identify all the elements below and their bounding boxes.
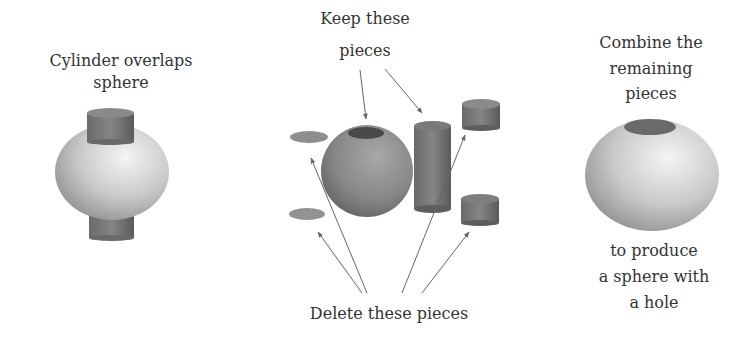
boolean-operation-diagram: Cylinder overlaps sphere Keep these piec… [0,0,754,340]
left-caption-line2: sphere [93,73,148,92]
keep-label-line2: pieces [339,41,390,60]
sphere-with-hole-piece [321,125,413,217]
result-line1: to produce [610,241,698,260]
delete-label: Delete these pieces [310,304,468,323]
keep-arrows [360,69,422,119]
top-cylinder-shape [87,108,134,145]
result-line2: a sphere with [599,267,710,286]
tall-cylinder-piece [414,121,451,213]
right-caption-line1: Combine the [599,33,702,52]
result-sphere-with-hole [585,119,719,231]
bottom-cap-cylinder-piece [461,194,499,226]
right-caption-line2: remaining [610,59,693,78]
right-panel: Combine the remaining pieces to produce … [585,33,719,312]
top-disc-piece [290,131,328,143]
keep-label-line1: Keep these [320,9,410,28]
top-cap-cylinder-piece [462,99,500,131]
right-caption-line3: pieces [625,84,676,103]
result-line3: a hole [629,293,678,312]
left-caption-line1: Cylinder overlaps [49,51,192,70]
left-panel: Cylinder overlaps sphere [49,51,192,241]
middle-panel: Keep these pieces [289,9,500,323]
bottom-disc-piece [289,208,325,220]
